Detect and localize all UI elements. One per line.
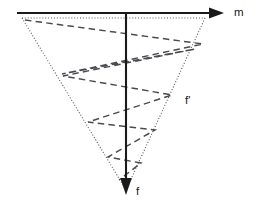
axis-label-m: m (234, 7, 244, 19)
zigzag-group (25, 20, 203, 180)
diagram-svg (0, 0, 266, 210)
cone-edge-label-f-prime: f' (185, 95, 190, 107)
axis-label-f: f (136, 186, 139, 198)
vertical-axis-arrowhead (120, 178, 132, 195)
horizontal-axis-group (17, 8, 224, 19)
zigzag-polyline (25, 20, 203, 180)
horizontal-axis-arrowhead (209, 8, 224, 19)
cone-right-edge-line (126, 18, 205, 190)
cone-group (22, 18, 205, 190)
vertical-axis-group (120, 13, 132, 195)
diagram-canvas: m f f' (0, 0, 266, 210)
cone-left-edge-line (22, 18, 126, 190)
